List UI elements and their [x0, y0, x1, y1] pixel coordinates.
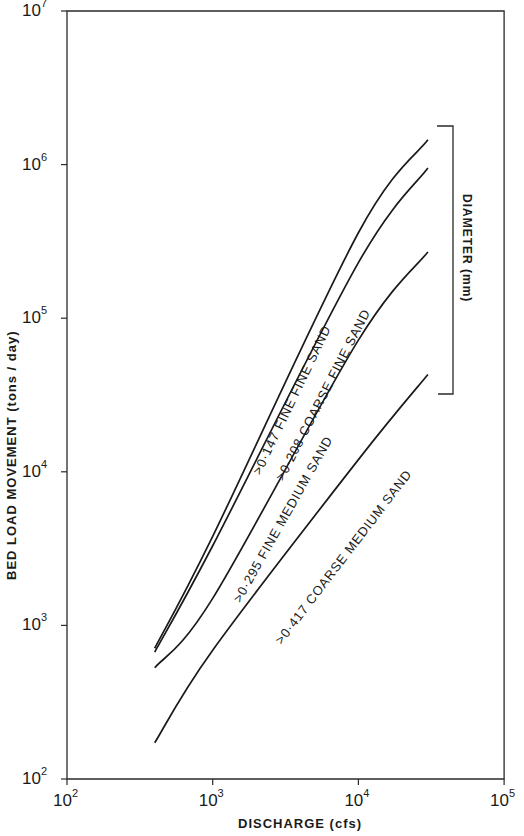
x-tick-label: 102 [53, 789, 78, 811]
diameter-bracket [437, 126, 453, 394]
y-tick-label: 103 [22, 613, 47, 635]
chart-canvas [0, 0, 524, 836]
bracket-line [437, 126, 453, 394]
x-axis-title: DISCHARGE (cfs) [238, 816, 362, 831]
plot-frame [61, 11, 504, 785]
y-tick-label: 107 [22, 0, 47, 21]
y-tick-label: 102 [22, 767, 47, 789]
y-tick-label: 104 [22, 460, 47, 482]
x-tick-label: 103 [199, 789, 224, 811]
x-tick-label: 104 [344, 789, 369, 811]
y-tick-label: 106 [22, 153, 47, 175]
y-axis-title: BED LOAD MOVEMENT (tons / day) [4, 330, 19, 580]
diameter-label: DIAMETER (mm) [460, 194, 474, 302]
y-tick-label: 105 [22, 306, 47, 328]
x-tick-label: 105 [490, 789, 515, 811]
series-line [155, 374, 428, 742]
